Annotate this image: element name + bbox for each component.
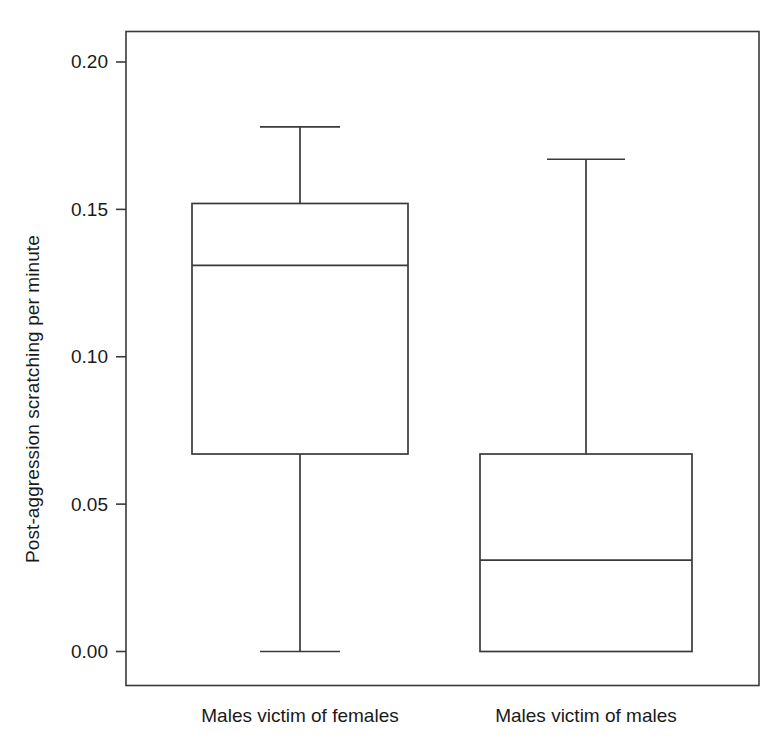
- box-males-victim-of-males: [480, 159, 692, 651]
- box-males-victim-of-females: [192, 127, 408, 652]
- box-iqr: [480, 454, 692, 651]
- plot-frame: [126, 32, 759, 686]
- plot-area: [0, 0, 784, 756]
- y-axis-ticks: [116, 62, 126, 652]
- boxplot-figure: Post-aggression scratching per minute 0.…: [0, 0, 784, 756]
- box-iqr: [192, 203, 408, 454]
